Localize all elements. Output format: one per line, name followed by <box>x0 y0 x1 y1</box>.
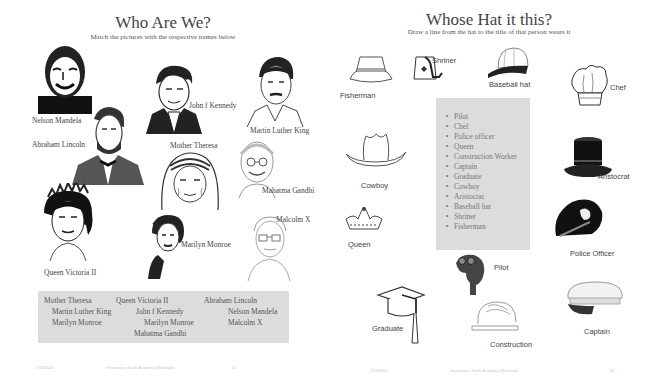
portrait-mandela-icon <box>36 40 94 114</box>
name-option: John f Kennedy <box>136 307 184 316</box>
name-option: Marilyn Monroe <box>144 318 194 327</box>
word-item: Police officer <box>440 132 517 142</box>
baseball-cap-icon <box>486 46 532 80</box>
hat-label: Aristocrat <box>598 172 630 181</box>
word-item: Chef <box>440 122 517 132</box>
hat-label: Police Officer <box>570 249 614 258</box>
hat-label: Fisherman <box>340 91 375 100</box>
pilot-helmet-icon <box>454 253 486 295</box>
graduation-cap-icon <box>376 285 426 347</box>
left-page: Who Are We? Match the pictures with the … <box>0 0 326 392</box>
hat-label: Shriner <box>432 56 456 65</box>
footer-title: Innovations Youth Academy Workbook <box>450 368 518 373</box>
name-option: Nelson Mandela <box>228 307 277 316</box>
hat-label: Baseball hat <box>489 80 530 89</box>
portrait-label: John f Kennedy <box>189 101 237 110</box>
crown-icon <box>344 205 384 233</box>
name-option: Mahatma Gandhi <box>134 329 186 338</box>
footer-date: 7/14/2020 <box>370 368 388 373</box>
word-item: Aristocrat <box>440 192 517 202</box>
names-box: Mother Theresa Queen Victoria II Abraham… <box>38 291 289 343</box>
hat-label: Graduate <box>372 324 403 333</box>
name-option: Abraham Lincoln <box>204 296 257 305</box>
hat-label: Construction <box>490 340 532 349</box>
hat-label: Cowboy <box>361 181 388 190</box>
word-item: Baseball hat <box>440 202 517 212</box>
word-item: Shriner <box>440 212 517 222</box>
page-subtitle: Draw a line from the hat to the title of… <box>326 28 652 36</box>
word-item: Cowboy <box>440 182 517 192</box>
footer-page: 42 <box>610 368 614 373</box>
footer-title: Innovations Youth Academy Workbook <box>106 365 174 370</box>
portrait-label: Martin Luther King <box>250 126 309 135</box>
portrait-monroe-icon <box>146 213 186 279</box>
portrait-queen-icon <box>38 183 98 261</box>
portrait-label: Malcolm X <box>276 215 310 224</box>
name-option: Malcolm X <box>228 318 262 327</box>
hat-label: Captain <box>584 327 610 336</box>
hat-label: Queen <box>348 240 371 249</box>
name-option: Martin Luther King <box>52 307 111 316</box>
portrait-theresa-icon <box>158 148 222 210</box>
word-item: Captain <box>440 162 517 172</box>
word-list-box: Pilot Chef Police officer Queen Construc… <box>436 98 530 250</box>
footer-page: 41 <box>232 365 236 370</box>
hard-hat-icon <box>470 298 520 332</box>
word-item: Fisherman <box>440 222 517 232</box>
captain-hat-icon <box>564 280 624 318</box>
word-item: Construction Worker <box>440 152 517 162</box>
portrait-mlk-icon <box>245 55 305 127</box>
hat-word-list: Pilot Chef Police officer Queen Construc… <box>440 112 517 232</box>
name-option: Marilyn Monroe <box>52 318 102 327</box>
cowboy-hat-icon <box>344 130 408 174</box>
chef-hat-icon <box>570 63 608 109</box>
page-title: Whose Hat it this? <box>326 10 652 30</box>
portrait-jfk-icon <box>146 62 202 134</box>
word-item: Pilot <box>440 112 517 122</box>
footer-date: 7/14/2020 <box>36 365 54 370</box>
page-title: Who Are We? <box>0 13 326 33</box>
right-page: Whose Hat it this? Draw a line from the … <box>326 0 652 392</box>
word-item: Graduate <box>440 172 517 182</box>
bucket-hat-icon <box>348 53 394 85</box>
portrait-label: Mahatma Gandhi <box>262 186 314 195</box>
portrait-label: Queen Victoria II <box>44 268 96 277</box>
name-option: Queen Victoria II <box>116 296 168 305</box>
portrait-label: Abraham Lincoln <box>32 140 85 149</box>
portrait-label: Marilyn Monroe <box>181 240 231 249</box>
portrait-malcolm-icon <box>246 215 292 281</box>
word-item: Queen <box>440 142 517 152</box>
hat-label: Pilot <box>494 263 509 272</box>
hat-label: Chef <box>610 83 626 92</box>
name-option: Mother Theresa <box>44 296 92 305</box>
police-cap-icon <box>552 196 604 242</box>
